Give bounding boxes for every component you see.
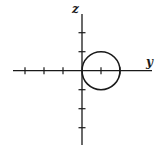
tick-marks [25, 33, 120, 128]
y-axis-label: y [145, 55, 154, 69]
coordinate-diagram: z y [0, 0, 168, 154]
z-axis-label: z [71, 2, 80, 16]
